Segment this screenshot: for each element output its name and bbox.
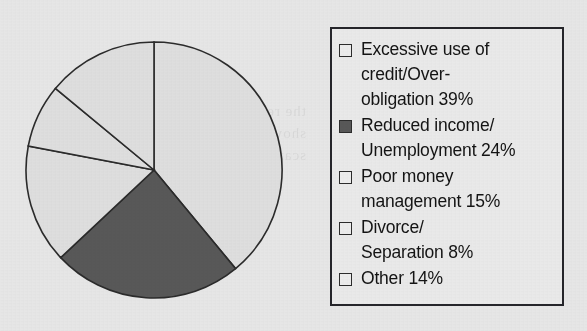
legend-item-label: Other 14% <box>361 266 443 291</box>
legend-item[interactable]: Reduced income/ Unemployment 24% <box>339 113 562 163</box>
chart-legend: Excessive use of credit/Over- obligation… <box>330 27 564 306</box>
legend-swatch-empty-icon <box>339 222 352 235</box>
legend-item-label: Reduced income/ Unemployment 24% <box>361 113 515 163</box>
pie-chart-figure: the reverse page shows faintly here scan… <box>0 0 587 331</box>
legend-item-label: Divorce/ Separation 8% <box>361 215 473 265</box>
legend-swatch-empty-icon <box>339 171 352 184</box>
pie-chart-graphic <box>18 34 290 306</box>
legend-item-list: Excessive use of credit/Over- obligation… <box>332 29 562 291</box>
legend-item[interactable]: Poor money management 15% <box>339 164 562 214</box>
legend-item[interactable]: Other 14% <box>339 266 562 291</box>
legend-item[interactable]: Divorce/ Separation 8% <box>339 215 562 265</box>
legend-swatch-empty-icon <box>339 44 352 57</box>
legend-item[interactable]: Excessive use of credit/Over- obligation… <box>339 37 562 112</box>
legend-item-label: Poor money management 15% <box>361 164 500 214</box>
legend-item-label: Excessive use of credit/Over- obligation… <box>361 37 489 112</box>
legend-swatch-empty-icon <box>339 273 352 286</box>
pie-slice-group <box>26 42 282 298</box>
legend-swatch-filled-icon <box>339 120 352 133</box>
